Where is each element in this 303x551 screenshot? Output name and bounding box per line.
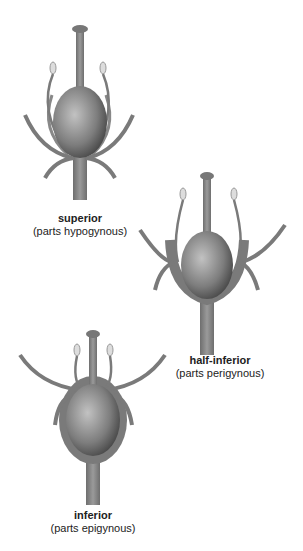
inferior-flower: [20, 330, 165, 505]
inferior-title: inferior: [23, 509, 163, 522]
superior-title: superior: [10, 212, 150, 225]
half-inferior-subtitle: (parts perigynous): [176, 367, 265, 379]
superior-label: superior (parts hypogynous): [10, 212, 150, 238]
superior-subtitle: (parts hypogynous): [33, 225, 127, 237]
inferior-label: inferior (parts epigynous): [23, 509, 163, 535]
half-inferior-title: half-inferior: [150, 354, 290, 367]
half-inferior-label: half-inferior (parts perigynous): [150, 354, 290, 380]
inferior-subtitle: (parts epigynous): [51, 522, 136, 534]
ovary-position-diagram: [0, 0, 303, 551]
superior-flower: [25, 25, 133, 200]
half-inferior-flower: [140, 172, 285, 355]
